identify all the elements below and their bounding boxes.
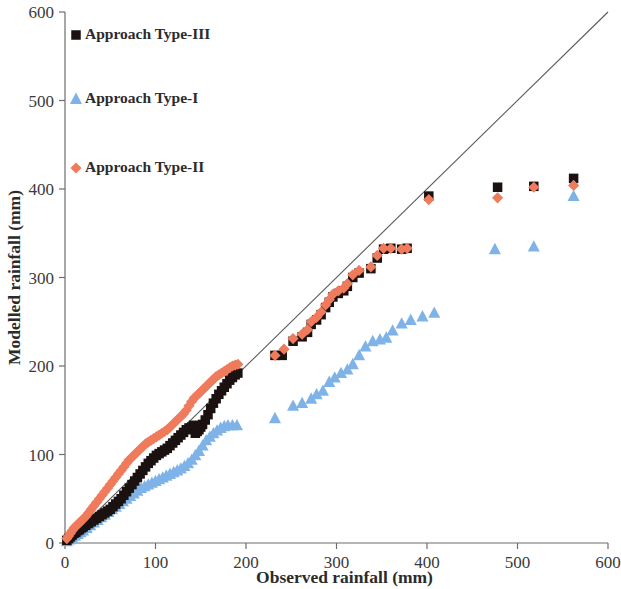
x-axis-tick-label: 100	[143, 553, 169, 572]
legend-label: Approach Type-III	[85, 25, 210, 42]
legend-marker-square	[71, 30, 81, 40]
scatter-chart-figure: 01002003004005006000100200300400500600 O…	[0, 0, 621, 589]
x-axis-tick-label: 0	[61, 553, 70, 572]
data-point-triangle	[287, 399, 299, 410]
data-point-triangle	[428, 307, 440, 318]
x-axis-tick-label: 600	[595, 553, 621, 572]
y-axis-tick-label: 600	[29, 3, 55, 22]
data-point-triangle	[489, 243, 501, 254]
data-point-triangle	[416, 310, 428, 321]
legend-marker-diamond	[70, 162, 81, 173]
y-axis-tick-label: 100	[29, 446, 55, 465]
x-axis-tick-label: 500	[505, 553, 531, 572]
data-point-triangle	[405, 314, 417, 325]
data-point-triangle	[387, 324, 399, 335]
legend-item-3[interactable]: Approach Type-II	[70, 158, 204, 175]
data-point-triangle	[269, 412, 281, 423]
data-point-triangle	[528, 240, 540, 251]
legend-item-2[interactable]: Approach Type-I	[70, 89, 198, 106]
y-axis-tick-label: 500	[29, 92, 55, 111]
y-axis-tick-label: 200	[29, 357, 55, 376]
legend-label: Approach Type-II	[85, 158, 204, 175]
data-points-layer	[61, 174, 580, 547]
y-axis-tick-label: 400	[29, 180, 55, 199]
chart-canvas: 01002003004005006000100200300400500600 O…	[0, 0, 621, 589]
legend-layer: Approach Type-IIIApproach Type-IApproach…	[70, 25, 210, 175]
legend-marker-triangle	[70, 93, 82, 104]
x-axis-title: Observed rainfall (mm)	[256, 567, 433, 587]
series-approach-type-i	[61, 190, 580, 546]
y-axis-title: Modelled rainfall (mm)	[4, 190, 24, 365]
x-axis-tick-label: 200	[233, 553, 259, 572]
data-point-square	[493, 182, 503, 192]
data-point-triangle	[568, 190, 580, 201]
y-axis-tick-label: 0	[46, 534, 55, 553]
data-point-diamond	[492, 192, 503, 203]
legend-label: Approach Type-I	[85, 89, 198, 106]
legend-item-1[interactable]: Approach Type-III	[71, 25, 210, 42]
y-axis-tick-label: 300	[29, 269, 55, 288]
